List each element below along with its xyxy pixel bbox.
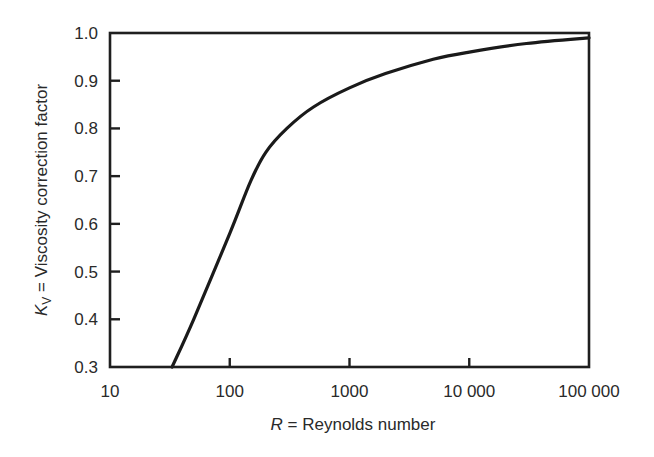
y-axis-title-text: = Viscosity correction factor (32, 84, 51, 297)
y-tick-label: 0.5 (74, 263, 98, 282)
y-tick-label: 1.0 (74, 24, 98, 43)
y-tick-label: 0.4 (74, 310, 98, 329)
x-tick-label: 100 (216, 382, 244, 401)
y-axis-title: KV = Viscosity correction factor (32, 84, 54, 316)
y-tick-label: 0.7 (74, 167, 98, 186)
plot-frame (110, 33, 589, 367)
viscosity-correction-chart: 0.30.40.50.60.70.80.91.0 10100100010 000… (0, 0, 654, 457)
x-tick-label: 100 000 (558, 382, 619, 401)
y-tick-label: 0.6 (74, 215, 98, 234)
y-tick-label: 0.9 (74, 72, 98, 91)
y-tick-label: 0.8 (74, 119, 98, 138)
x-tick-label: 10 (101, 382, 120, 401)
y-axis-ticks: 0.30.40.50.60.70.80.91.0 (74, 24, 120, 377)
x-axis-title-text: = Reynolds number (283, 415, 436, 434)
x-axis-title: R = Reynolds number (271, 415, 436, 434)
y-tick-label: 0.3 (74, 358, 98, 377)
y-axis-subscript: V (40, 297, 54, 305)
x-axis-ticks: 10100100010 000100 000 (101, 358, 620, 401)
kv-curve (172, 38, 589, 367)
y-axis-var: K (32, 304, 51, 316)
x-tick-label: 10 000 (443, 382, 495, 401)
x-axis-var: R (271, 415, 283, 434)
x-tick-label: 1000 (331, 382, 369, 401)
